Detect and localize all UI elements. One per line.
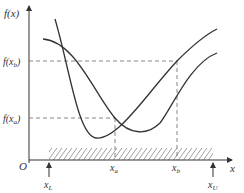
xu-label: xU <box>207 179 218 192</box>
curve-1 <box>55 19 217 138</box>
diagram-canvas: f(x) f(xb) f(xa) O xa xb x xL xU <box>0 0 244 193</box>
feasible-interval-hatch <box>49 148 213 160</box>
xb-label: xb <box>171 162 180 175</box>
curve-2 <box>43 39 217 132</box>
origin-label: O <box>19 160 27 172</box>
y-axis-label: f(x) <box>4 7 20 20</box>
xl-label: xL <box>43 179 52 192</box>
fxa-label: f(xa) <box>3 113 21 126</box>
x-axis-label: x <box>229 162 235 174</box>
fxb-label: f(xb) <box>3 56 21 69</box>
xa-label: xa <box>109 162 118 175</box>
